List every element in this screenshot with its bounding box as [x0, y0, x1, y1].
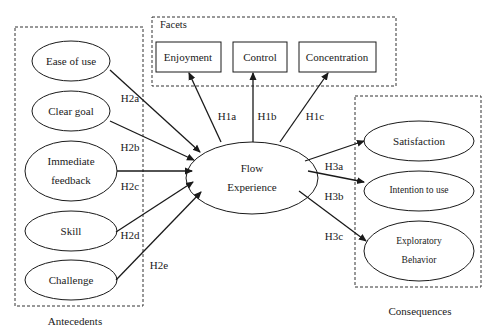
consequence-label-satisfaction: Satisfaction	[393, 136, 445, 147]
antecedent-label-immediate-feedback: Immediate feedback	[47, 152, 94, 190]
hypothesis-label-h1a: H1a	[218, 111, 236, 122]
consequence-label-line2: Behavior	[396, 251, 441, 270]
consequence-label-exploratory-behavior: Exploratory Behavior	[396, 232, 441, 270]
antecedent-label-ease-of-use: Ease of use	[46, 56, 96, 67]
hypothesis-label-h2e: H2e	[150, 260, 168, 271]
consequence-label-intention-to-use: Intention to use	[389, 186, 448, 196]
hypothesis-label-h2c: H2c	[121, 181, 139, 192]
arrow-h1a	[189, 73, 221, 142]
antecedent-label-challenge: Challenge	[49, 275, 94, 286]
antecedent-label-skill: Skill	[61, 226, 82, 237]
hypothesis-label-h1c: H1c	[306, 111, 324, 122]
flow-label-line1: Flow	[227, 159, 276, 178]
arrow-h1c	[280, 73, 328, 142]
facet-label-concentration: Concentration	[306, 52, 368, 63]
hypothesis-label-h3c: H3c	[325, 231, 343, 242]
antecedent-label-line2: feedback	[47, 171, 94, 190]
flow-experience-label: Flow Experience	[227, 159, 276, 197]
hypothesis-label-h1b: H1b	[258, 111, 277, 122]
facet-label-control: Control	[243, 52, 277, 63]
facet-label-enjoyment: Enjoyment	[164, 52, 212, 63]
hypothesis-label-h2a: H2a	[121, 93, 139, 104]
antecedent-label-line1: Immediate	[47, 152, 94, 171]
hypothesis-label-h3b: H3b	[325, 191, 344, 202]
antecedent-label-clear-goal: Clear goal	[48, 106, 94, 117]
hypothesis-label-h2b: H2b	[121, 142, 140, 153]
consequence-label-line1: Exploratory	[396, 232, 441, 251]
consequences-group-label: Consequences	[389, 306, 452, 317]
hypothesis-label-h2d: H2d	[121, 230, 140, 241]
hypothesis-label-h3a: H3a	[325, 161, 343, 172]
antecedents-group-label: Antecedents	[48, 316, 102, 327]
flow-label-line2: Experience	[227, 178, 276, 197]
facets-group-label: Facets	[160, 20, 187, 31]
